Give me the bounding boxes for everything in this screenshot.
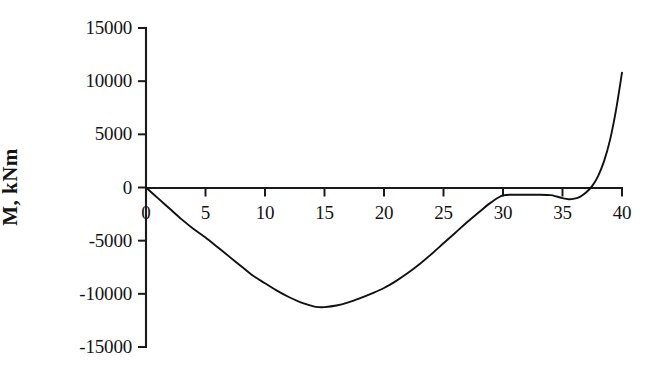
chart-container: M, kNm -15000-10000-5000050001000015000 …: [0, 0, 669, 374]
plot-area: [0, 0, 669, 374]
y-axis-ticks: [138, 28, 146, 347]
y-axis: [138, 28, 146, 347]
